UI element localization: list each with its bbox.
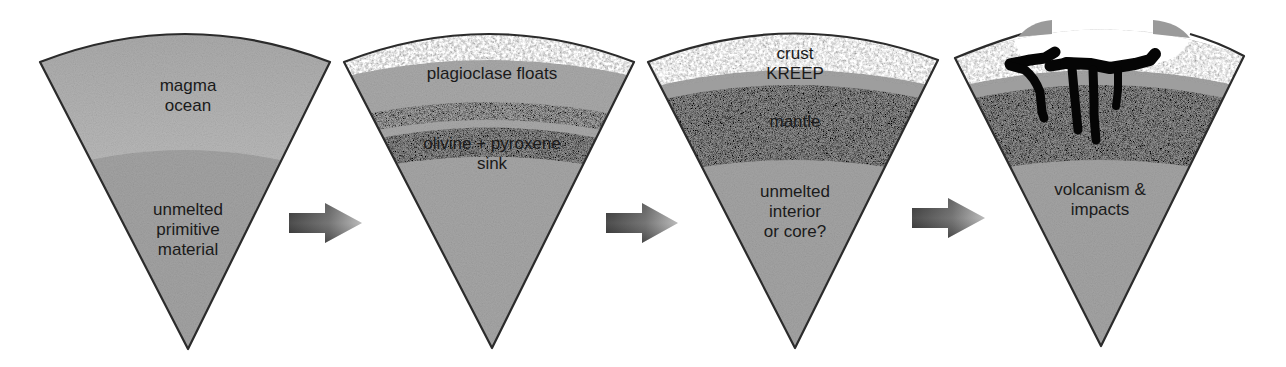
label-olivine-pyroxene-sink: olivine + pyroxene sink bbox=[423, 134, 561, 174]
label-volcanism-impacts: volcanism & impacts bbox=[1054, 180, 1146, 220]
label-magma-ocean: magma ocean bbox=[160, 76, 217, 116]
right-arrow-icon bbox=[606, 203, 678, 243]
label-line: ocean bbox=[160, 96, 217, 116]
label-line: magma bbox=[160, 76, 217, 96]
label-mantle: mantle bbox=[769, 112, 820, 132]
label-line: crust bbox=[777, 44, 814, 64]
diagram-canvas: magma ocean unmelted primitive material … bbox=[0, 0, 1286, 367]
label-line: plagioclase floats bbox=[427, 64, 557, 84]
label-line: olivine + pyroxene bbox=[423, 134, 561, 154]
label-line: or core? bbox=[760, 222, 830, 242]
right-arrow-icon bbox=[912, 198, 985, 238]
stage-2-wedge bbox=[330, 0, 650, 360]
label-line: volcanism & bbox=[1054, 180, 1146, 200]
label-kreep: KREEP bbox=[766, 64, 824, 84]
label-crust: crust bbox=[777, 44, 814, 64]
label-line: impacts bbox=[1054, 200, 1146, 220]
label-line: mantle bbox=[769, 112, 820, 132]
label-line: interior bbox=[760, 202, 830, 222]
label-line: sink bbox=[423, 154, 561, 174]
label-line: unmelted bbox=[760, 182, 830, 202]
right-arrow-icon bbox=[289, 203, 362, 243]
label-plagioclase-floats: plagioclase floats bbox=[427, 64, 557, 84]
stage-1-wedge bbox=[20, 0, 350, 360]
label-line: primitive bbox=[153, 220, 223, 240]
label-line: KREEP bbox=[766, 64, 824, 84]
label-line: unmelted bbox=[153, 200, 223, 220]
label-line: material bbox=[153, 240, 223, 260]
label-unmelted-primitive-material: unmelted primitive material bbox=[153, 200, 223, 260]
label-unmelted-interior: unmelted interior or core? bbox=[760, 182, 830, 242]
